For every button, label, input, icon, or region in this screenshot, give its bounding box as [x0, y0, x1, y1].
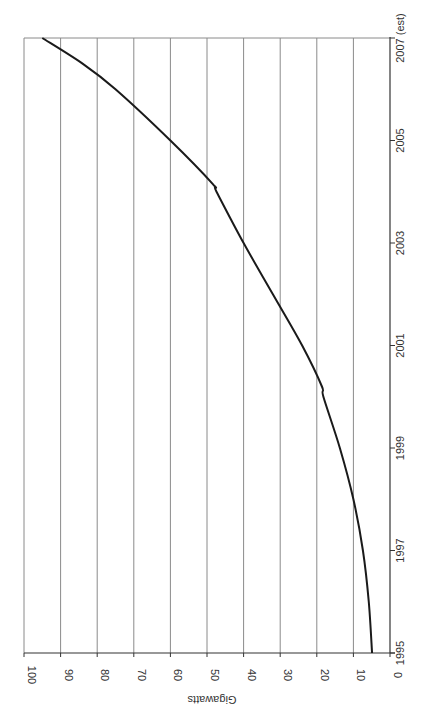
value-tick-labels: 0102030405060708090100 — [26, 666, 404, 684]
value-tick-label: 80 — [99, 669, 111, 681]
line-chart: 0102030405060708090100 19951997199920012… — [0, 0, 439, 728]
y-axis-title: Gigawatts — [187, 694, 236, 706]
gridlines — [24, 38, 390, 653]
value-tick-label: 100 — [26, 666, 38, 684]
value-tick-label: 30 — [282, 669, 294, 681]
value-tick-label: 50 — [209, 669, 221, 681]
year-tick-label: 1995 — [394, 641, 406, 665]
year-tick-label: 1999 — [394, 436, 406, 460]
value-tick-label: 40 — [246, 669, 258, 681]
value-tick-label: 10 — [355, 669, 367, 681]
axes — [24, 37, 395, 657]
year-tick-label: 2003 — [394, 231, 406, 255]
year-tick-label: 2007 (est) — [394, 13, 406, 63]
value-tick-label: 70 — [136, 669, 148, 681]
year-tick-label: 2005 — [394, 128, 406, 152]
year-tick-label: 1997 — [394, 538, 406, 562]
value-tick-label: 90 — [63, 669, 75, 681]
year-tick-labels: 1995199719992001200320052007 (est) — [394, 13, 406, 665]
value-tick-label: 0 — [392, 672, 404, 678]
year-tick-label: 2001 — [394, 333, 406, 357]
value-tick-label: 20 — [319, 669, 331, 681]
value-tick-label: 60 — [172, 669, 184, 681]
